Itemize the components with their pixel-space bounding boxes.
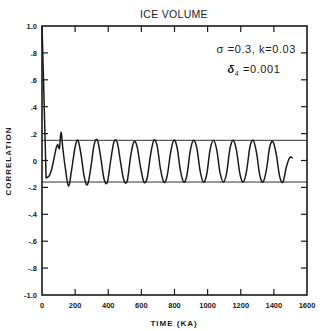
chart-title: ICE VOLUME — [140, 8, 208, 20]
y-tick-label: .6 — [31, 76, 37, 85]
delta-symbol: δ — [227, 63, 234, 75]
y-tick-label: 1.0 — [27, 22, 37, 31]
y-tick-label: -.8 — [28, 264, 37, 273]
x-tick-label: 400 — [102, 301, 115, 310]
x-tick-label: 1400 — [266, 301, 283, 310]
x-tick-label: 800 — [168, 301, 181, 310]
x-tick-label: 600 — [135, 301, 148, 310]
x-tick-label: 1000 — [199, 301, 216, 310]
y-tick-label: .8 — [31, 49, 37, 58]
y-tick-label: -1.0 — [24, 291, 37, 300]
annotation-delta: δ4 =0.001 — [227, 63, 280, 77]
y-tick-label: 0 — [33, 157, 37, 166]
y-tick-label: -.2 — [28, 183, 37, 192]
x-tick-label: 0 — [40, 301, 44, 310]
delta-value: =0.001 — [239, 63, 280, 75]
x-axis-label: TIME (KA) — [150, 319, 197, 328]
ice-volume-correlation-chart: ICE VOLUME 02004006008001000120014001600… — [0, 0, 326, 331]
y-tick-label: -.4 — [28, 210, 38, 219]
annotation-sigma-k: σ =0.3, k=0.03 — [217, 43, 296, 55]
x-tick-label: 200 — [69, 301, 82, 310]
x-tick-label: 1600 — [299, 301, 316, 310]
y-axis-label: CORRELATION — [4, 126, 13, 195]
x-tick-label: 1200 — [232, 301, 249, 310]
y-tick-label: .2 — [31, 130, 37, 139]
y-tick-label: .4 — [31, 103, 38, 112]
y-tick-label: -.6 — [28, 237, 37, 246]
